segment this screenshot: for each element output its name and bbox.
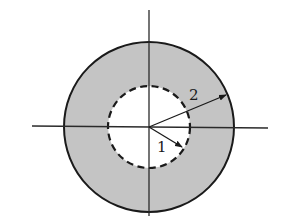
label-2: 2 <box>189 86 199 104</box>
annulus-diagram: 1 2 <box>0 0 297 216</box>
label-1: 1 <box>157 138 167 156</box>
